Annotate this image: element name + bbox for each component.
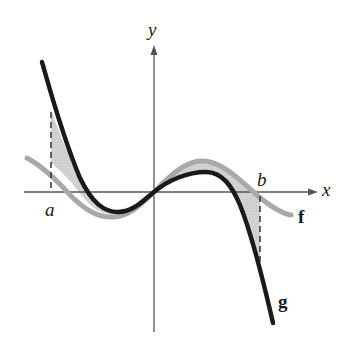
area-between-curves-svg — [0, 0, 345, 354]
curve-g-label: g — [278, 292, 288, 311]
curve-f-label: f — [298, 207, 304, 226]
shaded-region-left — [51, 110, 154, 214]
x-axis-label: x — [322, 180, 330, 199]
y-axis-arrow-icon — [151, 45, 158, 55]
point-b-label: b — [257, 170, 267, 189]
point-a-label: a — [45, 200, 55, 219]
x-axis-arrow-icon — [308, 189, 318, 196]
diagram-canvas: y x a b f g — [0, 0, 345, 354]
y-axis-label: y — [148, 20, 156, 39]
